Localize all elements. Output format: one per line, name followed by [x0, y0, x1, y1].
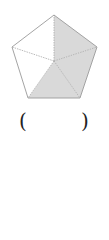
answer-blank[interactable] — [30, 113, 80, 133]
right-parenthesis: ) — [81, 111, 89, 131]
left-parenthesis: ( — [19, 111, 27, 131]
